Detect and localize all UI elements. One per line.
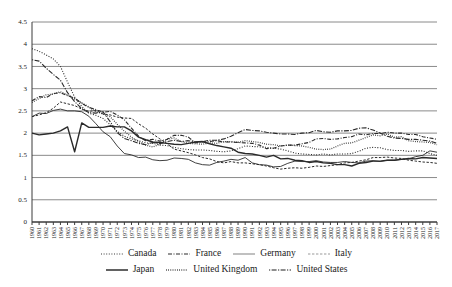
legend-item-united-kingdom[interactable]: United Kingdom [165,265,257,275]
legend-swatch [100,250,124,258]
series-line-germany [32,109,437,167]
legend-row-2: JapanUnited KingdomUnited States [0,262,452,278]
x-tick-label: 2003 [335,227,341,239]
x-axis-tick-labels: 1960196119621963196419651966196719681969… [29,227,440,239]
x-tick-label: 1967 [79,227,85,239]
x-tick-label: 1988 [228,227,234,239]
x-tick-label: 2015 [420,227,426,239]
legend-label: France [195,249,221,259]
x-tick-label: 1962 [43,227,49,239]
legend-swatch [232,250,256,258]
y-tick-label: 1 [24,174,28,182]
x-tick-label: 1968 [86,227,92,239]
legend-swatch [268,266,292,274]
x-tick-label: 1987 [221,227,227,239]
legend-swatch [165,266,189,274]
x-tick-label: 2001 [321,227,327,239]
x-tick-label: 1997 [292,227,298,239]
x-tick-label: 1994 [271,227,277,239]
x-tick-label: 1995 [278,227,284,239]
x-tick-label: 1966 [72,227,78,239]
x-tick-label: 1970 [100,227,106,239]
x-tick-label: 1996 [285,227,291,239]
x-tick-label: 1965 [65,227,71,239]
y-tick-label: 3 [24,85,28,93]
x-tick-label: 1986 [214,227,220,239]
x-tick-label: 1993 [264,227,270,239]
x-tick-label: 1985 [207,227,213,239]
x-tick-label: 1978 [157,227,163,239]
x-tick-label: 2007 [363,227,369,239]
legend-label: Germany [260,249,295,259]
x-tick-label: 1983 [193,227,199,239]
x-tick-label: 1999 [306,227,312,239]
series-line-italy [32,102,437,169]
y-tick-label: 0 [24,218,28,226]
y-tick-label: 2 [24,129,28,137]
x-tick-label: 2012 [399,227,405,239]
x-tick-label: 1984 [200,227,206,239]
x-tick-label: 1998 [299,227,305,239]
x-tick-label: 1973 [122,227,128,239]
x-tick-label: 1963 [51,227,57,239]
line-chart-plot: 00.511.522.533.544.5 1960196119621963196… [0,0,452,246]
y-axis-tick-labels: 00.511.522.533.544.5 [18,18,27,226]
legend-item-germany[interactable]: Germany [232,249,295,259]
x-tick-label: 1972 [114,227,120,239]
x-tick-label: 2000 [313,227,319,239]
legend-item-united-states[interactable]: United States [268,265,347,275]
y-tick-label: 0.5 [18,196,27,204]
legend-swatch [307,250,331,258]
x-tick-label: 1971 [107,227,113,239]
y-tick-label: 4 [24,40,28,48]
legend-swatch [167,250,191,258]
x-tick-label: 2013 [406,227,412,239]
x-tick-label: 1964 [58,227,64,239]
y-tick-label: 4.5 [18,18,27,26]
x-tick-label: 2016 [427,227,433,239]
legend-item-italy[interactable]: Italy [307,249,352,259]
legend-row-1: CanadaFranceGermanyItaly [0,246,452,262]
x-tick-label: 1992 [257,227,263,239]
x-tick-label: 1974 [129,227,135,239]
legend-item-canada[interactable]: Canada [100,249,157,259]
y-tick-label: 1.5 [18,151,27,159]
chart-figure: 00.511.522.533.544.5 1960196119621963196… [0,0,452,287]
y-tick-label: 2.5 [18,107,27,115]
x-tick-label: 1989 [235,227,241,239]
x-tick-label: 1979 [164,227,170,239]
legend-swatch [105,266,129,274]
legend-label: United Kingdom [193,265,257,275]
legend-label: United States [296,265,347,275]
legend-label: Japan [133,265,155,275]
x-tick-label: 2002 [328,227,334,239]
x-tick-label: 1976 [143,227,149,239]
x-axis [32,222,437,225]
x-tick-label: 2017 [434,227,440,239]
x-tick-label: 2008 [370,227,376,239]
x-tick-label: 1980 [171,227,177,239]
chart-legend: CanadaFranceGermanyItaly JapanUnited Kin… [0,246,452,278]
gridlines [32,22,437,222]
legend-item-france[interactable]: France [167,249,221,259]
legend-label: Italy [335,249,352,259]
x-tick-label: 1977 [150,227,156,239]
x-tick-label: 2005 [349,227,355,239]
y-tick-label: 3.5 [18,63,27,71]
x-tick-label: 2010 [384,227,390,239]
x-tick-label: 2014 [413,227,419,239]
series-line-canada [32,49,437,156]
x-tick-label: 1969 [93,227,99,239]
x-tick-label: 2004 [342,227,348,239]
x-tick-label: 1991 [249,227,255,239]
x-tick-label: 2011 [392,227,398,239]
series-line-united-states [32,60,437,145]
x-tick-label: 1960 [29,227,35,239]
x-tick-label: 1981 [178,227,184,239]
legend-item-japan[interactable]: Japan [105,265,155,275]
legend-label: Canada [128,249,157,259]
x-tick-label: 2009 [377,227,383,239]
x-tick-label: 1982 [186,227,192,239]
x-tick-label: 1961 [36,227,42,239]
x-tick-label: 2006 [356,227,362,239]
